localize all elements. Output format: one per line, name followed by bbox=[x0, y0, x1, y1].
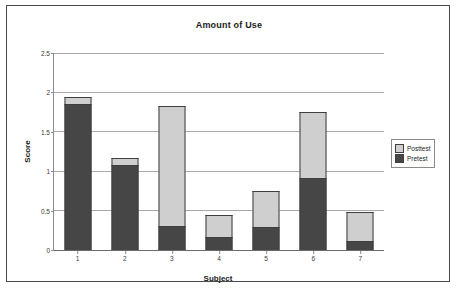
x-tick-label: 2 bbox=[123, 255, 127, 262]
y-tick-mark bbox=[51, 250, 54, 251]
y-axis-title: Score bbox=[23, 53, 35, 250]
y-gridline bbox=[54, 131, 384, 132]
x-tick-label: 5 bbox=[264, 255, 268, 262]
y-gridline bbox=[54, 210, 384, 211]
y-tick-mark bbox=[51, 53, 54, 54]
bar-stack[interactable] bbox=[111, 158, 138, 250]
y-tick-label: 0 bbox=[46, 247, 50, 254]
bar-stack[interactable] bbox=[300, 112, 327, 250]
y-tick-label: 2.5 bbox=[41, 50, 50, 57]
y-tick-mark bbox=[51, 211, 54, 212]
x-tick-mark bbox=[78, 251, 79, 254]
x-axis-title: Subject bbox=[53, 274, 383, 283]
bar-stack[interactable] bbox=[206, 215, 233, 250]
legend-item-posttest: Posttest bbox=[395, 144, 430, 153]
x-tick-mark bbox=[125, 251, 126, 254]
legend-label-pretest: Pretest bbox=[407, 155, 428, 162]
x-tick-mark bbox=[219, 251, 220, 254]
y-tick-label: 1 bbox=[46, 168, 50, 175]
x-tick-mark bbox=[172, 251, 173, 254]
bar-segment-posttest[interactable] bbox=[347, 212, 374, 241]
legend-swatch-pretest bbox=[395, 154, 404, 163]
y-gridline bbox=[54, 171, 384, 172]
bar-segment-pretest[interactable] bbox=[64, 104, 91, 250]
bar-segment-posttest[interactable] bbox=[206, 215, 233, 237]
bar-segment-pretest[interactable] bbox=[158, 226, 185, 250]
y-tick-label: 2 bbox=[46, 89, 50, 96]
bar-stack[interactable] bbox=[253, 191, 280, 250]
bar-stack[interactable] bbox=[64, 97, 91, 250]
x-tick-label: 7 bbox=[359, 255, 363, 262]
figure-border: Amount of Use Score Subject 00.511.522.5… bbox=[6, 5, 450, 282]
bar-segment-posttest[interactable] bbox=[158, 106, 185, 227]
chart-figure: Amount of Use Score Subject 00.511.522.5… bbox=[0, 0, 457, 295]
bar-segment-posttest[interactable] bbox=[300, 112, 327, 178]
x-tick-mark bbox=[266, 251, 267, 254]
y-tick-label: 0.5 bbox=[41, 207, 50, 214]
x-tick-mark bbox=[313, 251, 314, 254]
x-tick-label: 1 bbox=[76, 255, 80, 262]
bar-stack[interactable] bbox=[158, 106, 185, 250]
y-tick-mark bbox=[51, 132, 54, 133]
y-tick-mark bbox=[51, 92, 54, 93]
plot-area: 00.511.522.51234567 bbox=[53, 53, 384, 251]
y-tick-label: 1.5 bbox=[41, 128, 50, 135]
bar-segment-posttest[interactable] bbox=[64, 97, 91, 104]
bar-stack[interactable] bbox=[347, 212, 374, 250]
y-gridline bbox=[54, 53, 384, 54]
legend-swatch-posttest bbox=[395, 144, 404, 153]
bar-segment-posttest[interactable] bbox=[111, 158, 138, 165]
bar-segment-pretest[interactable] bbox=[206, 237, 233, 250]
x-tick-label: 4 bbox=[217, 255, 221, 262]
bar-segment-pretest[interactable] bbox=[253, 227, 280, 250]
legend-item-pretest: Pretest bbox=[395, 154, 430, 163]
x-tick-label: 6 bbox=[311, 255, 315, 262]
bar-segment-pretest[interactable] bbox=[347, 241, 374, 250]
bar-segment-posttest[interactable] bbox=[253, 191, 280, 227]
y-gridline bbox=[54, 92, 384, 93]
x-tick-label: 3 bbox=[170, 255, 174, 262]
bar-segment-pretest[interactable] bbox=[111, 165, 138, 250]
bar-segment-pretest[interactable] bbox=[300, 178, 327, 250]
chart-legend: Posttest Pretest bbox=[391, 139, 435, 168]
chart-title: Amount of Use bbox=[7, 20, 451, 30]
y-tick-mark bbox=[51, 171, 54, 172]
x-tick-mark bbox=[360, 251, 361, 254]
legend-label-posttest: Posttest bbox=[407, 145, 430, 152]
